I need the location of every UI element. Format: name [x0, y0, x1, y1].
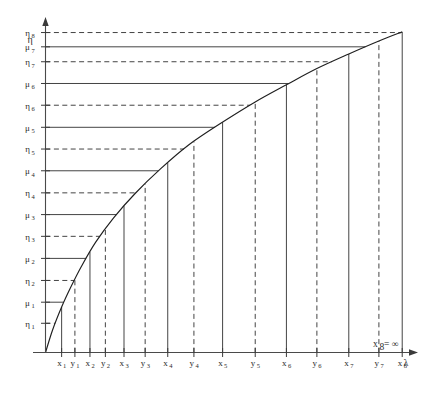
x-tick-label-base: x	[86, 358, 91, 368]
x-tick-label-base: x	[163, 358, 168, 368]
y-tick-label-base: η	[25, 276, 30, 286]
mathematical-diagram: η1μ1η2μ2η3μ3η4μ4η5μ5η6μ6η7μ7η8 x1y1x2y2x…	[0, 0, 440, 406]
x-tick-label-base: y	[374, 358, 379, 368]
annotation-equals-infinity: = ∞	[384, 339, 399, 349]
x-tick-label-base: x	[218, 358, 223, 368]
x-tick-label-subscript: 2	[107, 362, 110, 369]
x-tick-label-base: y	[189, 358, 194, 368]
x-tick-label-subscript: 5	[257, 362, 260, 369]
y-tick-label-base: η	[25, 319, 30, 329]
y-tick-label-subscript: 3	[31, 236, 34, 243]
x-tick-label-base: x	[398, 358, 403, 368]
x-tick-label-base: y	[70, 358, 75, 368]
y-tick-label-base: μ	[25, 123, 30, 133]
y-tick-label-base: η	[25, 144, 30, 154]
x-tick-label-subscript: 1	[76, 362, 79, 369]
y-tick-label-base: μ	[25, 210, 30, 220]
figure-container: η1μ1η2μ2η3μ3η4μ4η5μ5η6μ6η7μ7η8 x1y1x2y2x…	[0, 0, 440, 406]
x-tick-label-base: x	[282, 358, 287, 368]
y-tick-label-base: η	[25, 188, 30, 198]
x-tick-label-base: y	[101, 358, 106, 368]
y-tick-label-subscript: 2	[31, 280, 34, 287]
y-tick-label-subscript: 1	[31, 323, 34, 330]
y-tick-label-base: η	[25, 101, 30, 111]
y-tick-label-base: μ	[25, 79, 30, 89]
x-tick-label-subscript: 3	[147, 362, 150, 369]
y-tick-label-subscript: 5	[31, 149, 34, 156]
annotation-base: x	[373, 339, 378, 349]
y-tick-label-subscript: 1	[31, 302, 34, 309]
x-tick-label-subscript: 5	[224, 362, 227, 369]
x-tick-label-subscript: 3	[125, 362, 128, 369]
x-tick-label-subscript: 1	[63, 362, 66, 369]
y-tick-label-base: η	[25, 57, 30, 67]
y-tick-label-base: η	[25, 232, 30, 242]
x-tick-label-base: y	[141, 358, 146, 368]
y-axis-label: η	[27, 34, 32, 45]
x-tick-label-base: y	[251, 358, 256, 368]
y-tick-label-subscript: 2	[31, 258, 34, 265]
y-tick-label-base: μ	[25, 166, 30, 176]
y-tick-label-subscript: 5	[31, 127, 34, 134]
x-tick-label-base: y	[312, 358, 317, 368]
y-tick-label-base: μ	[25, 254, 30, 264]
x-axis-label: λ	[404, 357, 409, 368]
x-tick-label-base: x	[120, 358, 125, 368]
x-tick-label-base: x	[57, 358, 62, 368]
y-tick-label-subscript: 3	[31, 214, 34, 221]
y-tick-label-base: μ	[25, 298, 30, 308]
x-tick-label-base: x	[344, 358, 349, 368]
x-tick-label-subscript: 2	[91, 362, 94, 369]
